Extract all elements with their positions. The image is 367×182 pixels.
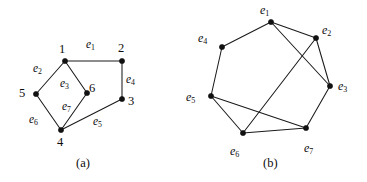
vertex-a-2 (119, 58, 124, 63)
edge-label-e2-subscript: 2 (38, 67, 42, 76)
panel-b (208, 19, 332, 135)
edge-label-e7: e7 (62, 101, 71, 114)
panel-a (33, 58, 124, 132)
vertex-label-6: 6 (89, 82, 95, 95)
vertex-b-e2 (313, 35, 318, 40)
edge-a-5-4 (36, 94, 61, 130)
edge-b-e1-e4 (222, 22, 271, 47)
vertex-b-e5 (208, 93, 213, 98)
node-label-e5: e5 (186, 91, 195, 105)
figure-root: 123456e1e2e3e4e5e6e7(a)e1e2e3e4e5e6e7(b) (0, 0, 367, 182)
edge-label-e4-subscript: 4 (131, 78, 135, 87)
edge-label-e6: e6 (29, 114, 38, 127)
vertex-label-1: 1 (59, 43, 65, 56)
edge-label-e5-subscript: 5 (98, 120, 102, 129)
node-label-e4-subscript: 4 (203, 37, 207, 46)
edge-label-e3-subscript: 3 (65, 82, 69, 91)
edge-label-e1: e1 (86, 39, 95, 52)
edge-label-e4: e4 (126, 74, 135, 87)
vertex-b-e4 (219, 44, 224, 49)
vertex-a-1 (62, 58, 67, 63)
node-label-e1-subscript: 1 (265, 9, 269, 18)
edge-label-e6-subscript: 6 (34, 118, 38, 127)
node-label-e1: e1 (260, 4, 269, 18)
node-label-e7-subscript: 7 (309, 147, 313, 156)
vertex-label-4: 4 (57, 136, 63, 149)
node-label-e3-subscript: 3 (343, 85, 347, 94)
node-label-e6: e6 (230, 145, 239, 159)
vertex-b-e3 (327, 83, 332, 88)
vertex-a-3 (119, 96, 124, 101)
vertex-a-5 (33, 91, 38, 96)
vertex-b-e6 (240, 130, 245, 135)
vertex-label-3: 3 (128, 95, 134, 108)
node-label-e3: e3 (338, 80, 347, 94)
vertex-label-5: 5 (19, 87, 25, 100)
node-label-e5-subscript: 5 (191, 96, 195, 105)
edge-label-e7-subscript: 7 (67, 105, 71, 114)
vertex-label-2: 2 (118, 42, 124, 55)
node-label-e4: e4 (198, 32, 207, 46)
node-label-e2: e2 (322, 24, 331, 38)
edge-b-e6-e7 (243, 128, 306, 133)
edge-label-e2: e2 (33, 63, 42, 76)
node-label-e2-subscript: 2 (327, 29, 331, 38)
edge-label-e3: e3 (60, 78, 69, 91)
edge-b-e4-e5 (211, 47, 222, 96)
vertex-b-e7 (303, 125, 308, 130)
vertex-b-e1 (268, 19, 273, 24)
caption-a: (a) (76, 157, 90, 170)
vertex-a-4 (58, 127, 63, 132)
caption-b: (b) (263, 157, 278, 170)
edge-label-e1-subscript: 1 (91, 43, 95, 52)
edge-label-e5: e5 (93, 116, 102, 129)
edge-b-e3-e7 (306, 86, 330, 128)
node-label-e6-subscript: 6 (235, 150, 239, 159)
node-label-e7: e7 (304, 142, 313, 156)
